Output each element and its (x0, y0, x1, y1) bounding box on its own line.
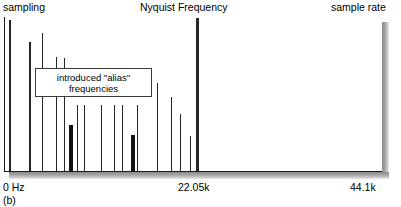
alias-callout-line1: introduced "alias" (57, 72, 130, 83)
spectrum-spike (42, 33, 44, 171)
spectrum-spike (137, 105, 139, 171)
spectrum-spike (9, 20, 11, 171)
x-axis-label-nyquist: 22.05k (178, 181, 210, 193)
alias-callout-box: introduced "alias" frequencies (35, 68, 152, 97)
label-sampling: sampling (3, 1, 45, 13)
x-axis-label-zero: 0 Hz (3, 181, 25, 193)
spectrum-spike (29, 42, 31, 171)
label-sample-rate: sample rate (331, 1, 386, 13)
spectrum-spike (180, 114, 182, 171)
spectrum-spike (122, 105, 124, 171)
plot-shadow-right (382, 22, 389, 177)
x-axis-label-sample-rate: 44.1k (350, 181, 376, 193)
figure-caption: (b) (3, 194, 16, 206)
aliasing-spectrum-figure: sampling Nyquist Frequency sample rate i… (0, 0, 401, 207)
nyquist-frequency-line (196, 18, 200, 172)
plot-shadow-bottom (9, 172, 389, 179)
alias-spike (69, 125, 73, 171)
alias-spike (131, 135, 135, 171)
spectrum-spike (77, 105, 79, 171)
spectrum-spike (114, 105, 116, 171)
spectrum-spike (84, 105, 86, 171)
spectrum-spike (190, 136, 192, 171)
alias-callout-line2: frequencies (69, 83, 118, 94)
label-nyquist-frequency: Nyquist Frequency (140, 1, 228, 13)
spectrum-spike (171, 97, 173, 171)
spectrum-spike (101, 105, 103, 171)
spectrum-spike (157, 83, 159, 171)
